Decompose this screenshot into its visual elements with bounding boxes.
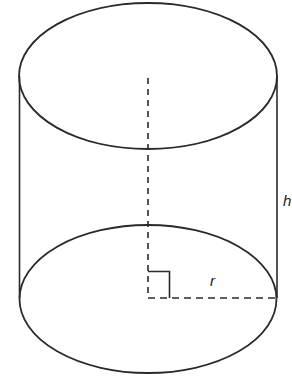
radius-label: r xyxy=(210,272,216,289)
right-angle-marker xyxy=(148,272,170,299)
cylinder-figure: h r xyxy=(0,0,292,377)
cylinder-diagram: h r xyxy=(0,0,292,377)
height-label: h xyxy=(283,192,291,209)
